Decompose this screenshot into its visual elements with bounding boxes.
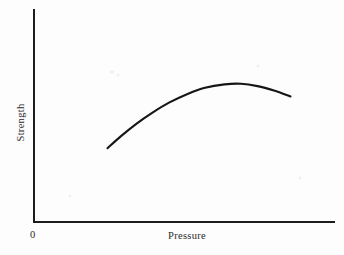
paper-speck [256,64,259,67]
paper-speckle-group [69,64,302,197]
x-axis-label: Pressure [0,230,344,241]
paper-speck [110,70,114,74]
paper-speck [69,195,72,198]
y-axis-label: Strength [15,79,26,167]
paper-speck [117,74,120,77]
strength-pressure-curve [108,84,291,149]
paper-speck [299,177,302,180]
chart-canvas [0,0,344,255]
chart-figure: 0 Pressure Strength [0,0,344,255]
